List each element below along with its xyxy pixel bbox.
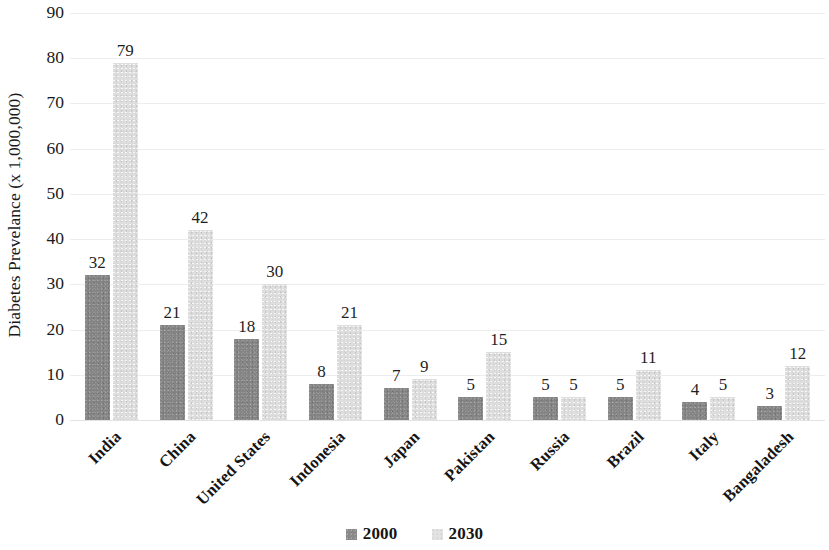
- bar-slot: 8: [309, 13, 334, 420]
- y-axis-tick-label: 20: [47, 321, 65, 339]
- bar-group: 312: [746, 13, 821, 420]
- bar-value-label: 9: [420, 358, 429, 375]
- bar-2000[interactable]: [682, 402, 707, 420]
- bar-value-label: 5: [569, 376, 578, 393]
- plot-area: 327921421830821795155551145312: [70, 13, 825, 420]
- bar-slot: 7: [384, 13, 409, 420]
- bar-2000[interactable]: [309, 384, 334, 420]
- bar-value-label: 5: [719, 376, 728, 393]
- bar-2030[interactable]: [710, 397, 735, 420]
- bar-slot: 79: [113, 13, 138, 420]
- x-axis-label-slot: Italy: [672, 421, 747, 521]
- bar-slot: 18: [234, 13, 259, 420]
- bar-2000[interactable]: [384, 388, 409, 420]
- bar-group: 821: [298, 13, 373, 420]
- x-axis-category-label: India: [84, 427, 125, 468]
- x-axis-label-slot: India: [74, 421, 149, 521]
- y-axis-tick-label: 30: [47, 276, 65, 294]
- bar-2030[interactable]: [262, 284, 287, 420]
- bar-value-label: 30: [266, 263, 283, 280]
- bar-2000[interactable]: [533, 397, 558, 420]
- y-axis-tick-label: 50: [47, 185, 65, 203]
- x-axis-label-slot: Pakistan: [448, 421, 523, 521]
- bar-2000[interactable]: [608, 397, 633, 420]
- bar-2000[interactable]: [160, 325, 185, 420]
- bar-2030[interactable]: [486, 352, 511, 420]
- x-axis-label-slot: Bangaladesh: [746, 421, 821, 521]
- y-axis-tick-label: 0: [55, 411, 64, 429]
- bar-value-label: 8: [317, 363, 326, 380]
- bar-slot: 15: [486, 13, 511, 420]
- x-axis-label-slot: Japan: [373, 421, 448, 521]
- bar-slot: 5: [533, 13, 558, 420]
- legend-item-label: 2030: [449, 524, 484, 544]
- bar-2030[interactable]: [113, 63, 138, 420]
- bar-value-label: 7: [392, 367, 401, 384]
- bar-slot: 42: [188, 13, 213, 420]
- bar-slot: 4: [682, 13, 707, 420]
- bar-value-label: 42: [192, 209, 209, 226]
- y-axis-tick-labels: 9080706050403020100: [24, 0, 64, 420]
- x-axis-label-slot: China: [149, 421, 224, 521]
- bar-slot: 11: [636, 13, 661, 420]
- bar-value-label: 79: [117, 42, 134, 59]
- x-axis-category-label: China: [155, 427, 200, 472]
- bar-slot: 3: [757, 13, 782, 420]
- y-axis-tick-label: 90: [47, 4, 65, 22]
- bar-group: 1830: [223, 13, 298, 420]
- legend-item[interactable]: 2000: [346, 524, 398, 544]
- bar-value-label: 21: [164, 304, 181, 321]
- bar-value-label: 18: [238, 318, 255, 335]
- bar-slot: 9: [412, 13, 437, 420]
- y-axis-tick-label: 70: [47, 95, 65, 113]
- bar-2030[interactable]: [188, 230, 213, 420]
- bar-value-label: 11: [640, 349, 656, 366]
- bar-2030[interactable]: [412, 379, 437, 420]
- bar-group: 79: [373, 13, 448, 420]
- y-axis-tick-label: 60: [47, 140, 65, 158]
- bar-2000[interactable]: [458, 397, 483, 420]
- x-axis-category-label: Japan: [379, 427, 424, 472]
- x-axis-category-label: Italy: [685, 427, 723, 465]
- x-axis-category-labels: IndiaChinaUnited StatesIndonesiaJapanPak…: [70, 421, 825, 521]
- x-axis-label-slot: Brazil: [597, 421, 672, 521]
- x-axis-label-slot: United States: [223, 421, 298, 521]
- bar-slot: 32: [85, 13, 110, 420]
- bar-group: 3279: [74, 13, 149, 420]
- bar-slot: 21: [160, 13, 185, 420]
- bar-value-label: 32: [89, 254, 106, 271]
- bar-slot: 12: [785, 13, 810, 420]
- bar-slot: 5: [458, 13, 483, 420]
- bar-2030[interactable]: [636, 370, 661, 420]
- x-axis-label-slot: Russia: [522, 421, 597, 521]
- x-axis-category-label: Brazil: [603, 427, 648, 472]
- bar-slot: 21: [337, 13, 362, 420]
- bar-slot: 5: [608, 13, 633, 420]
- bar-2000[interactable]: [234, 339, 259, 420]
- bar-group: 515: [448, 13, 523, 420]
- bar-2000[interactable]: [757, 406, 782, 420]
- bar-2000[interactable]: [85, 275, 110, 420]
- x-axis-category-label: Russia: [526, 427, 574, 475]
- bar-2030[interactable]: [337, 325, 362, 420]
- chart-legend: 20002030: [0, 524, 829, 544]
- bar-group: 2142: [149, 13, 224, 420]
- bar-group: 55: [522, 13, 597, 420]
- bar-value-label: 21: [341, 304, 358, 321]
- bar-group: 45: [672, 13, 747, 420]
- bar-value-label: 5: [467, 376, 476, 393]
- series-2030-swatch: [432, 529, 443, 540]
- y-axis-tick-label: 80: [47, 49, 65, 67]
- bar-2030[interactable]: [785, 366, 810, 420]
- bar-value-label: 5: [541, 376, 550, 393]
- bar-value-label: 3: [765, 385, 774, 402]
- legend-item-label: 2000: [363, 524, 398, 544]
- bar-chart: Diabetes Prevelance (x 1,000,000) 908070…: [0, 0, 829, 550]
- bar-group: 511: [597, 13, 672, 420]
- bar-value-label: 4: [691, 381, 700, 398]
- bar-value-label: 15: [490, 331, 507, 348]
- y-axis-tick-label: 40: [47, 230, 65, 248]
- bar-value-label: 12: [789, 345, 806, 362]
- legend-item[interactable]: 2030: [432, 524, 484, 544]
- bar-2030[interactable]: [561, 397, 586, 420]
